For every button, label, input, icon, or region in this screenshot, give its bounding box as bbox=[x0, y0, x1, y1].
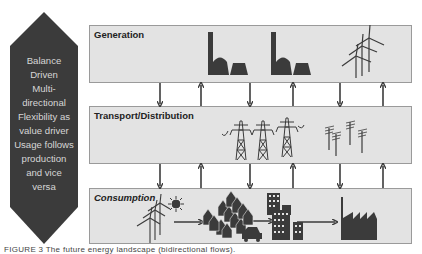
factory-icon bbox=[341, 197, 377, 240]
sun-icon bbox=[168, 196, 184, 212]
apartment-buildings-icon bbox=[267, 193, 303, 240]
pylon-icon bbox=[276, 118, 304, 157]
pylon-icon bbox=[222, 121, 252, 160]
pylon-icon bbox=[252, 121, 274, 160]
utility-poles-icon bbox=[325, 121, 367, 156]
power-plant-icon bbox=[208, 32, 248, 75]
wind-turbines-icon bbox=[342, 25, 384, 78]
wind-turbines-icon bbox=[137, 194, 170, 243]
figure-caption: FIGURE 3 The future energy landscape (bi… bbox=[4, 245, 235, 254]
power-plant-icon bbox=[271, 32, 311, 75]
